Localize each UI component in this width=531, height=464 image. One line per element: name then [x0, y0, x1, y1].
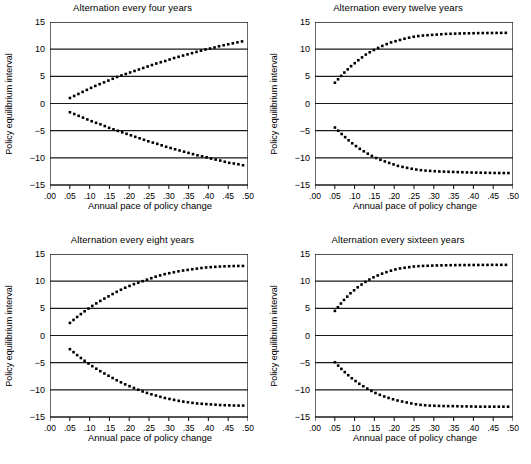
- data-marker: [353, 289, 356, 292]
- data-marker: [397, 165, 400, 168]
- data-marker: [91, 365, 94, 368]
- data-marker: [350, 65, 353, 68]
- data-marker: [242, 404, 245, 407]
- data-marker: [477, 264, 480, 267]
- data-marker: [91, 305, 94, 308]
- data-marker: [405, 401, 408, 404]
- data-marker: [133, 283, 136, 286]
- y-tick-label: 15: [35, 17, 50, 27]
- data-series: [334, 264, 508, 313]
- data-marker: [233, 404, 236, 407]
- data-marker: [107, 295, 110, 298]
- data-marker: [337, 306, 340, 309]
- data-marker: [484, 405, 487, 408]
- y-tick-label: −10: [295, 385, 315, 395]
- data-marker: [87, 307, 90, 310]
- data-marker: [77, 93, 80, 96]
- data-marker: [218, 45, 221, 48]
- data-marker: [120, 381, 123, 384]
- data-marker: [458, 32, 461, 35]
- data-marker: [410, 167, 413, 170]
- data-marker: [486, 32, 489, 35]
- data-marker: [164, 60, 167, 63]
- data-marker: [95, 367, 98, 370]
- data-marker: [468, 264, 471, 267]
- data-marker: [108, 127, 111, 130]
- data-marker: [227, 43, 230, 46]
- data-marker: [466, 171, 469, 174]
- data-marker: [94, 85, 97, 88]
- data-marker: [372, 276, 375, 279]
- data-marker: [408, 266, 411, 269]
- data-marker: [129, 71, 132, 74]
- y-axis-label: Policy equilibrium interval: [2, 254, 16, 418]
- data-marker: [141, 390, 144, 393]
- y-tick-label: 5: [40, 71, 50, 81]
- data-marker: [83, 310, 86, 313]
- figure-panel-grid: Alternation every four years Policy equi…: [0, 0, 531, 464]
- data-marker: [210, 157, 213, 160]
- data-marker: [223, 265, 226, 268]
- data-marker: [475, 405, 478, 408]
- data-marker: [505, 264, 508, 267]
- data-marker: [213, 46, 216, 49]
- data-marker: [87, 362, 90, 365]
- data-marker: [125, 73, 128, 76]
- data-marker: [403, 266, 406, 269]
- data-marker: [354, 380, 357, 383]
- data-marker: [160, 144, 163, 147]
- data-marker: [209, 47, 212, 50]
- x-axis-label: Annual pace of policy change: [50, 200, 250, 211]
- data-marker: [165, 145, 168, 148]
- data-marker: [374, 392, 377, 395]
- data-marker: [376, 274, 379, 277]
- data-marker: [334, 126, 337, 129]
- data-marker: [173, 57, 176, 60]
- data-marker: [99, 123, 102, 126]
- data-marker: [72, 319, 75, 322]
- data-marker: [237, 404, 240, 407]
- data-marker: [463, 264, 466, 267]
- data-marker: [177, 400, 180, 403]
- data-marker: [182, 269, 185, 272]
- y-tick-label: 15: [300, 17, 315, 27]
- plot-svg: [315, 254, 513, 426]
- data-marker: [112, 128, 115, 131]
- data-marker: [445, 33, 448, 36]
- data-marker: [375, 157, 378, 160]
- data-marker: [440, 264, 443, 267]
- data-marker: [214, 158, 217, 161]
- data-marker: [137, 388, 140, 391]
- data-marker: [343, 371, 346, 374]
- plot-area: 151050−5−10−15.00.05.10.15.20.25.30.35.4…: [315, 22, 513, 185]
- data-marker: [417, 265, 420, 268]
- data-marker: [436, 264, 439, 267]
- data-marker: [99, 300, 102, 303]
- data-marker: [470, 171, 473, 174]
- data-marker: [388, 162, 391, 165]
- data-marker: [159, 395, 162, 398]
- data-marker: [196, 402, 199, 405]
- data-marker: [150, 393, 153, 396]
- data-marker: [454, 32, 457, 35]
- data-marker: [163, 273, 166, 276]
- y-axis-label: Policy equilibrium interval: [2, 22, 16, 186]
- data-marker: [465, 405, 468, 408]
- data-marker: [73, 113, 76, 116]
- chart-panel: Alternation every sixteen years Policy e…: [265, 232, 531, 464]
- data-marker: [82, 116, 85, 119]
- y-tick-label: 0: [40, 99, 50, 109]
- data-marker: [223, 404, 226, 407]
- data-marker: [125, 133, 128, 136]
- data-marker: [472, 32, 475, 35]
- panel-title: Alternation every four years: [0, 2, 265, 13]
- panel-title: Alternation every eight years: [0, 234, 265, 245]
- data-marker: [456, 171, 459, 174]
- data-marker: [410, 402, 413, 405]
- plot-svg: [315, 22, 513, 194]
- y-tick-label: 10: [35, 44, 50, 54]
- data-marker: [168, 272, 171, 275]
- y-tick-label: 15: [300, 249, 315, 259]
- data-marker: [429, 170, 432, 173]
- data-marker: [422, 34, 425, 37]
